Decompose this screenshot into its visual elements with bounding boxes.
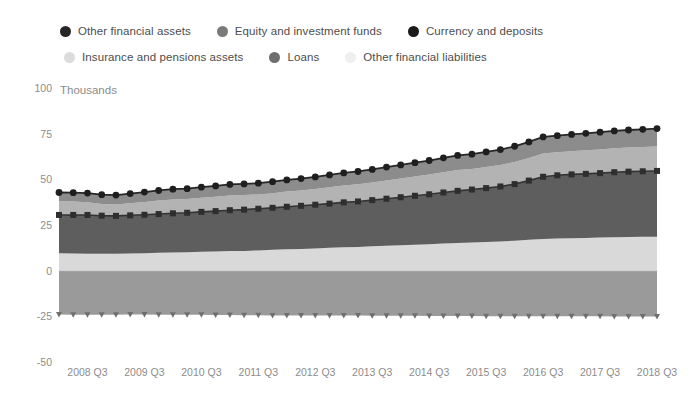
square-marker xyxy=(127,212,133,218)
data-point-marker xyxy=(526,314,532,320)
data-point-marker xyxy=(341,313,347,319)
circle-marker xyxy=(454,152,461,159)
data-point-marker xyxy=(284,313,290,319)
circle-marker xyxy=(440,154,447,161)
square-marker xyxy=(455,188,461,194)
square-marker xyxy=(426,191,432,197)
circle-marker xyxy=(70,189,77,196)
square-marker xyxy=(56,212,62,218)
data-point-marker xyxy=(455,313,461,319)
square-marker xyxy=(198,209,204,215)
data-point-marker xyxy=(70,312,76,318)
circle-marker xyxy=(639,126,646,133)
data-point-marker xyxy=(497,314,503,320)
square-marker xyxy=(626,169,632,175)
square-marker xyxy=(597,170,603,176)
data-point-marker xyxy=(127,312,133,318)
circle-marker xyxy=(540,134,547,141)
circle-marker xyxy=(98,191,105,198)
square-marker xyxy=(113,213,119,219)
data-point-marker xyxy=(99,312,105,318)
data-point-marker xyxy=(597,314,603,320)
square-marker xyxy=(512,181,518,187)
data-point-marker xyxy=(583,314,589,320)
square-marker xyxy=(141,212,147,218)
data-point-marker xyxy=(170,312,176,318)
x-axis-tick-label: 2011 Q3 xyxy=(239,366,279,378)
square-marker xyxy=(213,208,219,214)
stacked-area-plot xyxy=(0,0,689,409)
square-marker xyxy=(611,169,617,175)
circle-marker xyxy=(212,183,219,190)
circle-marker xyxy=(568,131,575,138)
square-marker xyxy=(412,193,418,199)
circle-marker xyxy=(469,151,476,158)
square-marker xyxy=(654,168,660,174)
data-point-marker xyxy=(369,313,375,319)
circle-marker xyxy=(198,184,205,191)
square-marker xyxy=(298,203,304,209)
data-point-marker xyxy=(426,313,432,319)
circle-marker xyxy=(611,128,618,135)
square-marker xyxy=(383,196,389,202)
square-marker xyxy=(255,206,261,212)
circle-marker xyxy=(525,138,532,145)
data-point-marker xyxy=(611,314,617,320)
data-point-marker xyxy=(184,312,190,318)
data-point-marker xyxy=(512,314,518,320)
square-marker xyxy=(184,210,190,216)
square-marker xyxy=(483,185,489,191)
square-marker xyxy=(241,207,247,213)
circle-marker xyxy=(113,192,120,199)
data-point-marker xyxy=(270,313,276,319)
data-point-marker xyxy=(440,313,446,319)
circle-marker xyxy=(397,162,404,169)
data-point-marker xyxy=(412,313,418,319)
circle-marker xyxy=(127,190,134,197)
data-point-marker xyxy=(213,313,219,319)
square-marker xyxy=(440,189,446,195)
square-marker xyxy=(156,211,162,217)
data-point-marker xyxy=(227,313,233,319)
data-point-marker xyxy=(640,314,646,320)
x-axis-tick-label: 2017 Q3 xyxy=(580,366,620,378)
square-marker xyxy=(99,213,105,219)
data-point-marker xyxy=(540,314,546,320)
circle-marker xyxy=(155,187,162,194)
square-marker xyxy=(469,187,475,193)
data-point-marker xyxy=(654,314,660,320)
circle-marker xyxy=(298,175,305,182)
square-marker xyxy=(526,178,532,184)
data-point-marker xyxy=(141,312,147,318)
data-point-marker xyxy=(569,314,575,320)
square-marker xyxy=(327,201,333,207)
x-axis-tick-label: 2012 Q3 xyxy=(295,366,335,378)
circle-marker xyxy=(355,168,362,175)
circle-marker xyxy=(84,190,91,197)
circle-marker xyxy=(269,178,276,185)
data-point-marker xyxy=(113,312,119,318)
square-marker xyxy=(341,199,347,205)
square-marker xyxy=(640,168,646,174)
square-marker xyxy=(369,197,375,203)
data-point-marker xyxy=(156,312,162,318)
circle-marker xyxy=(141,189,148,196)
data-point-marker xyxy=(198,312,204,318)
circle-marker xyxy=(654,125,661,132)
circle-marker xyxy=(497,146,504,153)
chart-canvas xyxy=(0,0,689,409)
circle-marker xyxy=(483,149,490,156)
circle-marker xyxy=(369,166,376,173)
x-axis-tick-label: 2013 Q3 xyxy=(352,366,392,378)
square-marker xyxy=(170,210,176,216)
data-point-marker xyxy=(255,313,261,319)
square-marker xyxy=(540,174,546,180)
x-axis-tick-label: 2016 Q3 xyxy=(523,366,563,378)
circle-marker xyxy=(426,157,433,164)
data-point-marker xyxy=(383,313,389,319)
square-marker xyxy=(70,212,76,218)
circle-marker xyxy=(255,180,262,187)
square-marker xyxy=(84,212,90,218)
x-axis-tick-label: 2008 Q3 xyxy=(67,366,107,378)
square-marker xyxy=(497,183,503,189)
